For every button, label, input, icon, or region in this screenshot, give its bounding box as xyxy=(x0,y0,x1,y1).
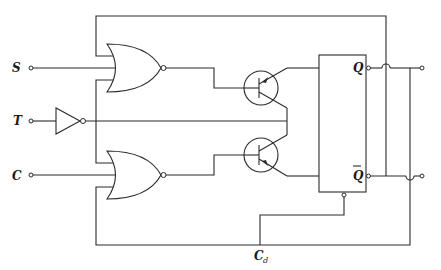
clear-input-cd[interactable]: C d xyxy=(254,193,346,265)
input-c-terminal xyxy=(29,173,33,177)
output-qbar-label: Q xyxy=(353,169,364,183)
output-q-label: Q xyxy=(353,61,364,75)
output-qbar-terminal xyxy=(420,174,424,178)
circuit-diagram: S T C xyxy=(0,0,441,270)
clear-bubble xyxy=(342,193,346,197)
input-t-label: T xyxy=(13,114,23,128)
input-c[interactable]: C xyxy=(12,169,119,183)
output-q[interactable] xyxy=(367,64,425,70)
nor-gate-upper-icon xyxy=(107,44,243,92)
input-c-label: C xyxy=(12,169,22,183)
input-s[interactable]: S xyxy=(12,61,119,75)
input-s-label: S xyxy=(12,61,21,75)
flip-flop: Q Q xyxy=(319,55,366,192)
inverter-output-bubble xyxy=(81,119,86,124)
clear-label-subscript: d xyxy=(263,256,268,265)
inverter-t-icon xyxy=(56,108,80,134)
input-t[interactable]: T xyxy=(13,108,287,134)
transistor-upper-icon xyxy=(243,68,319,108)
input-s-terminal xyxy=(29,66,33,70)
nor-gate-lower-icon xyxy=(107,151,243,199)
output-qbar[interactable] xyxy=(367,174,425,180)
output-q-terminal xyxy=(420,66,424,70)
input-t-terminal xyxy=(29,119,33,123)
transistor-lower-icon xyxy=(243,135,319,176)
